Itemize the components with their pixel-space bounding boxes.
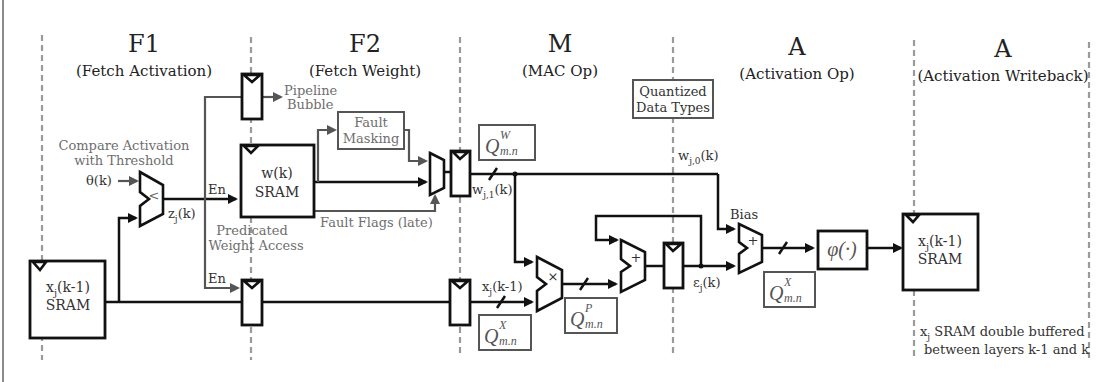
- compare-label-line1: Compare Activation: [59, 138, 191, 153]
- svg-text:Q: Q: [769, 282, 784, 304]
- zj-label: zj(k): [168, 206, 196, 224]
- fault-mux: [430, 153, 444, 195]
- pipeline-bubble-label-line2: Bubble: [287, 97, 334, 112]
- stage-title-f2: F2: [349, 30, 381, 58]
- stage-subtitle-wb: (Activation Writeback): [917, 67, 1088, 85]
- fault-masking-block: Fault Masking: [338, 112, 404, 149]
- svg-text:P: P: [584, 301, 593, 315]
- svg-text:Fault: Fault: [354, 115, 388, 130]
- svg-text:SRAM: SRAM: [918, 251, 963, 267]
- quantization-label-product: Q P m.n: [565, 298, 617, 333]
- svg-text:m.n: m.n: [585, 317, 603, 331]
- pipeline-bubble-register: [242, 74, 262, 119]
- stage-subtitle-a: (Activation Op): [739, 65, 854, 83]
- svg-text:W: W: [500, 128, 511, 142]
- svg-text:+: +: [631, 250, 642, 265]
- output-activation-sram: xj(k-1) SRAM: [903, 214, 978, 290]
- predicated-label-line2: Weight Access: [208, 238, 303, 253]
- svg-text:Q: Q: [484, 325, 499, 347]
- svg-text:m.n: m.n: [784, 291, 802, 305]
- ej-label: εj(k): [693, 275, 721, 293]
- compare-label-line2: with Threshold: [74, 153, 173, 168]
- quantized-data-types-box: Quantized Data Types: [633, 80, 713, 118]
- pipeline-bubble-label-line1: Pipeline: [284, 83, 338, 98]
- svg-text:SRAM: SRAM: [255, 184, 300, 200]
- stage-title-f1: F1: [128, 30, 160, 58]
- svg-text:φ(·): φ(·): [827, 238, 857, 261]
- comparator-unit: <: [140, 172, 163, 226]
- svg-text:Q: Q: [485, 135, 500, 157]
- wj1-label: wj,1(k): [472, 182, 513, 200]
- bias-label: Bias: [730, 207, 758, 222]
- stage-title-m: M: [548, 30, 573, 58]
- svg-text:X: X: [783, 275, 792, 289]
- svg-text:m.n: m.n: [500, 144, 518, 158]
- comparator-op-symbol: <: [149, 188, 160, 203]
- stage-subtitle-f2: (Fetch Weight): [309, 62, 421, 80]
- double-buffer-note-line2: between layers k-1 and k: [924, 342, 1089, 357]
- svg-text:Data Types: Data Types: [636, 100, 710, 115]
- en-label-top: En: [208, 182, 226, 197]
- activation-function-block: φ(·): [818, 231, 867, 269]
- stage-title-wb: A: [993, 35, 1012, 63]
- svg-text:Masking: Masking: [343, 131, 399, 146]
- theta-label: θ(k): [86, 173, 112, 188]
- activation-pipeline-register-f2: [242, 280, 262, 325]
- quantization-label-input: Q X m.n: [479, 315, 531, 350]
- en-label-bottom: En: [208, 271, 226, 286]
- svg-text:SRAM: SRAM: [46, 297, 91, 313]
- accelerator-pipeline-diagram: F1 (Fetch Activation) F2 (Fetch Weight) …: [0, 0, 1120, 382]
- svg-text:Q: Q: [570, 308, 585, 330]
- svg-text:m.n: m.n: [499, 334, 517, 348]
- stage-subtitle-m: (MAC Op): [522, 62, 598, 80]
- bias-adder: +: [739, 224, 762, 273]
- stage-subtitle-f1: (Fetch Activation): [76, 62, 212, 80]
- wj0-label: wj,0(k): [678, 148, 719, 166]
- stage-titles: F1 (Fetch Activation) F2 (Fetch Weight) …: [76, 30, 1089, 85]
- double-buffer-note-line1: xj SRAM double buffered: [920, 324, 1084, 342]
- svg-text:×: ×: [548, 269, 559, 284]
- quantization-label-output: Q X m.n: [764, 272, 815, 307]
- fault-flags-label: Fault Flags (late): [320, 215, 433, 230]
- svg-text:+: +: [748, 233, 759, 248]
- multiplier-unit: ×: [537, 257, 562, 311]
- stage-title-a: A: [787, 33, 806, 61]
- weight-sram: w(k) SRAM: [241, 145, 314, 217]
- quantization-label-weight: Q W m.n: [479, 125, 535, 160]
- svg-text:X: X: [498, 318, 507, 332]
- accumulator-register: [664, 243, 683, 288]
- svg-text:w(k): w(k): [261, 165, 292, 181]
- predicated-label-line1: Predicated: [216, 223, 287, 238]
- svg-text:Quantized: Quantized: [639, 84, 706, 99]
- input-activation-sram: xj(k-1) SRAM: [30, 261, 105, 338]
- weight-pipeline-register: [451, 151, 470, 196]
- xj-pipe-label: xj(k-1): [482, 279, 523, 297]
- activation-pipeline-register-m: [450, 280, 470, 325]
- accumulator-adder: +: [621, 240, 645, 292]
